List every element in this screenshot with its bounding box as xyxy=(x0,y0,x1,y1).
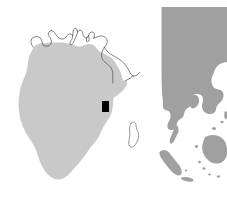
island-dot-3 xyxy=(185,169,188,171)
map-canvas xyxy=(0,0,227,200)
island-dot-5 xyxy=(212,127,216,130)
study-site-marker xyxy=(102,101,109,112)
island-dot-4 xyxy=(203,167,206,169)
island-dot-2 xyxy=(198,161,201,163)
island-dot-8 xyxy=(217,175,220,177)
island-dot-6 xyxy=(220,121,223,124)
world-map-figure xyxy=(0,0,227,200)
island-dot-1 xyxy=(195,145,198,148)
island-dot-7 xyxy=(208,173,211,175)
